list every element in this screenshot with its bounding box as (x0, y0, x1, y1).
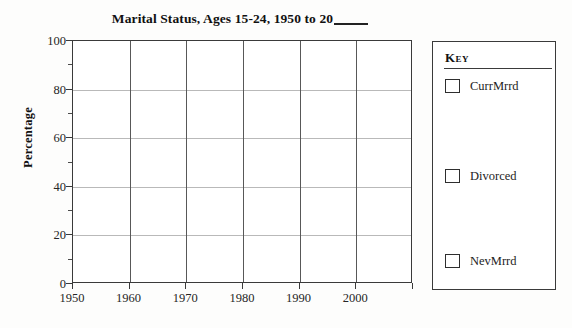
gridline-h-40 (73, 187, 411, 188)
gridline-v-1960 (130, 41, 131, 282)
x-major-tick-1980 (242, 283, 243, 289)
legend-box: Key CurrMrrd Divorced NevMrrd (432, 41, 556, 290)
x-major-tick-1990 (299, 283, 300, 289)
y-tick-label-40: 40 (30, 181, 66, 194)
legend-item-currmrrd[interactable]: CurrMrrd (445, 78, 553, 96)
y-axis-tick-labels: 100 80 60 40 20 0 (26, 40, 66, 283)
x-major-tick-1960 (129, 283, 130, 289)
gridline-v-1990 (300, 41, 301, 282)
x-tick-label-1980: 1980 (214, 292, 270, 305)
legend-item-divorced[interactable]: Divorced (445, 168, 553, 186)
y-tick-label-80: 80 (30, 84, 66, 97)
legend-item-label: CurrMrrd (470, 78, 519, 94)
legend-swatch-icon (445, 169, 460, 183)
y-tick-label-60: 60 (30, 132, 66, 145)
gridline-h-20 (73, 235, 411, 236)
legend-title: Key (445, 50, 469, 66)
x-tick-label-1950: 1950 (44, 292, 100, 305)
x-tick-label-1990: 1990 (271, 292, 327, 305)
gridline-h-60 (73, 138, 411, 139)
gridline-v-2000 (356, 41, 357, 282)
x-major-tick-1950 (72, 283, 73, 289)
gridline-h-80 (73, 90, 411, 91)
x-major-tick-end (412, 283, 413, 289)
plot-area (72, 40, 412, 283)
chart-page: Marital Status, Ages 15-24, 1950 to 20 P… (0, 0, 572, 328)
x-major-tick-2000 (355, 283, 356, 289)
chart-title-text: Marital Status, Ages 15-24, 1950 to 20 (112, 11, 333, 26)
gridline-v-1970 (186, 41, 187, 282)
legend-item-nevmrrd[interactable]: NevMrrd (445, 253, 553, 271)
y-tick-label-20: 20 (30, 229, 66, 242)
x-tick-label-1970: 1970 (157, 292, 213, 305)
x-major-tick-1970 (185, 283, 186, 289)
legend-swatch-icon (445, 79, 460, 93)
y-tick-label-0: 0 (30, 278, 66, 291)
legend-swatch-icon (445, 254, 460, 268)
legend-title-divider (444, 68, 552, 69)
x-tick-label-1960: 1960 (101, 292, 157, 305)
y-tick-label-100: 100 (30, 35, 66, 48)
legend-item-label: NevMrrd (470, 253, 517, 269)
chart-title: Marital Status, Ages 15-24, 1950 to 20 (60, 11, 420, 27)
gridline-v-1980 (243, 41, 244, 282)
chart-title-blank (334, 12, 368, 25)
x-tick-label-2000: 2000 (327, 292, 383, 305)
legend-item-label: Divorced (470, 168, 517, 184)
